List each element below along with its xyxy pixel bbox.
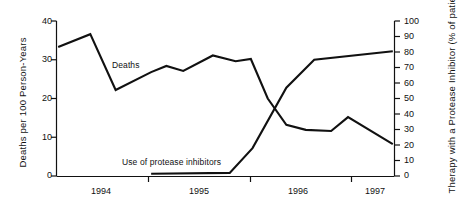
series-line-deaths [58,34,393,144]
x-axis-ticks [149,177,352,183]
left-axis-ticks [51,21,57,176]
right-axis-ticks [395,21,401,176]
chart-figure: Deaths per 100 Person-Years Therapy with… [0,0,464,216]
plot-area [0,0,464,216]
